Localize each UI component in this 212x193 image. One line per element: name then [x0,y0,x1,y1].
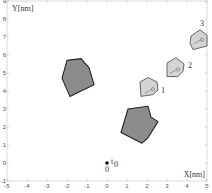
x-tick-label: -3 [44,183,50,189]
axis-ticks: -5-4-3-2-1012345-10123456789 [1,0,210,189]
y-tick-label: 2 [3,124,7,130]
x-tick-label: 1 [125,183,129,189]
robot-1 [140,78,158,97]
robot-label-1: 1 [161,86,165,95]
y-axis-label: Y[nm] [12,4,34,13]
x-tick-label: -2 [64,183,70,189]
robot-3 [190,30,207,50]
y-tick-label: -1 [1,178,7,184]
y-tick-label: 4 [3,88,7,94]
plot-frame [7,1,207,181]
robot-label-3: 3 [200,19,204,28]
trajectory-chart: -5-4-3-2-1012345-10123456789 123t00 X[nm… [0,0,212,193]
robot-2 [167,58,184,77]
y-tick-label: 5 [3,70,7,76]
x-axis-label: X[nm] [184,170,206,179]
y-tick-label: 1 [3,142,7,148]
y-tick-label: 7 [3,34,7,40]
y-tick-label: 9 [3,0,7,4]
robot-label-2: 2 [188,61,192,70]
x-tick-label: 2 [145,183,149,189]
plot-shapes: 123t00 [62,19,207,174]
obstacle-left [62,59,94,97]
y-tick-label: 3 [3,106,7,112]
x-tick-label: -4 [24,183,30,189]
y-tick-label: 6 [3,52,7,58]
x-tick-label: 4 [185,183,189,189]
x-tick-label: 0 [105,183,109,189]
obstacle-lower [121,106,158,143]
origin-label: 0 [105,165,109,174]
start-label-subscript: 0 [114,160,118,169]
x-tick-label: 3 [165,183,169,189]
axes-box [7,1,207,181]
y-tick-label: 0 [3,160,7,166]
x-tick-label: 5 [205,183,209,189]
x-tick-label: -1 [84,183,90,189]
y-tick-label: 8 [3,16,7,22]
